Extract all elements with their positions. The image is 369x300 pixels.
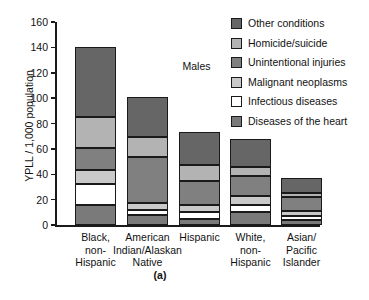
bar-segment[interactable] [75,205,116,225]
legend-swatch-icon [231,77,242,88]
legend-swatch-icon [231,38,242,49]
bar-segment[interactable] [179,212,220,218]
series-annotation-males: Males [183,60,211,72]
bar-segment[interactable] [127,157,168,204]
bar-segment[interactable] [230,212,271,225]
y-tick-140 [51,47,55,49]
bar-stack[interactable] [230,139,271,225]
legend-item[interactable]: Homicide/suicide [231,34,369,54]
bar-segment[interactable] [75,47,116,117]
bar-segment[interactable] [179,205,220,213]
y-tick-label-80: 80 [36,118,48,129]
bar-segment[interactable] [75,184,116,204]
bar-segment[interactable] [75,117,116,147]
bar-segment[interactable] [75,170,116,184]
bar-segment[interactable] [127,203,168,209]
legend: Other conditionsHomicide/suicideUnintent… [231,14,369,131]
legend-swatch-icon [231,18,242,29]
bar-segment[interactable] [281,193,322,197]
legend-label: Malignant neoplasms [248,77,347,88]
legend-label: Other conditions [248,18,324,29]
y-axis-line [55,22,57,225]
y-tick-label-0: 0 [42,220,48,231]
legend-swatch-icon [231,57,242,68]
bar-segment[interactable] [281,211,322,216]
y-tick-40 [51,174,55,176]
legend-item[interactable]: Unintentional injuries [231,53,369,73]
legend-label: Infectious diseases [248,96,337,107]
legend-item[interactable]: Infectious diseases [231,92,369,112]
bar-segment[interactable] [179,132,220,165]
bar-segment[interactable] [230,139,271,167]
bar-segment[interactable] [127,210,168,215]
bar-segment[interactable] [127,97,168,138]
legend-item[interactable]: Malignant neoplasms [231,73,369,93]
y-tick-label-40: 40 [36,169,48,180]
bar-segment[interactable] [75,148,116,171]
y-tick-100 [51,97,55,99]
bar-segment[interactable] [127,137,168,156]
y-tick-80 [51,123,55,125]
bar-segment[interactable] [281,220,322,225]
bar-segment[interactable] [230,196,271,205]
bar-segment[interactable] [179,181,220,205]
bar-stack[interactable] [75,47,116,225]
legend-item[interactable]: Diseases of the heart [231,112,369,132]
y-tick-20 [51,199,55,201]
legend-item[interactable]: Other conditions [231,14,369,34]
bar-segment[interactable] [230,176,271,196]
y-tick-0 [51,224,55,226]
y-tick-label-20: 20 [36,194,48,205]
bar-segment[interactable] [230,205,271,213]
bar-segment[interactable] [281,178,322,193]
legend-label: Homicide/suicide [248,38,327,49]
y-tick-label-120: 120 [30,68,48,79]
x-axis-label: Asian/ Pacific Islander [265,231,339,269]
bar-stack[interactable] [179,132,220,225]
y-tick-120 [51,72,55,74]
figure-caption: (a) [0,269,320,281]
y-tick-label-100: 100 [30,93,48,104]
y-tick-label-160: 160 [30,17,48,28]
y-tick-160 [51,21,55,23]
bar-segment[interactable] [179,219,220,225]
bar-segment[interactable] [281,216,322,220]
bar-stack[interactable] [281,178,322,225]
legend-swatch-icon [231,116,242,127]
legend-label: Unintentional injuries [248,57,345,68]
y-tick-60 [51,148,55,150]
x-axis-line [55,225,320,227]
legend-label: Diseases of the heart [248,116,347,127]
bar-segment[interactable] [127,215,168,225]
legend-swatch-icon [231,96,242,107]
bar-segment[interactable] [281,197,322,211]
bar-stack[interactable] [127,97,168,225]
bar-segment[interactable] [179,165,220,180]
y-tick-label-140: 140 [30,42,48,53]
bar-segment[interactable] [230,167,271,176]
y-tick-label-60: 60 [36,144,48,155]
figure-panel-a: YPLL / 1,000 population 0204060801001201… [0,0,369,300]
